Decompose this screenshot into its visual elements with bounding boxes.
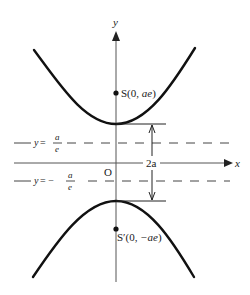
svg-text:e: e (68, 182, 72, 192)
x-axis-label: x (234, 157, 240, 169)
svg-text:y: y (33, 175, 39, 186)
svg-text:a: a (68, 170, 73, 180)
svg-text:=: = (40, 137, 46, 148)
hyperbola-lower-branch (33, 201, 194, 277)
focus-s-label: S(0, ae) (121, 87, 156, 100)
svg-text:e: e (55, 144, 59, 154)
y-axis-label: y (112, 16, 118, 28)
svg-text:a: a (55, 132, 60, 142)
x-axis-arrow-icon (224, 159, 233, 167)
svg-text:y: y (33, 137, 39, 148)
hyperbola-diagram: y x O y = a e y = − a e 2a S(0, ae) (0, 0, 250, 295)
hyperbola-upper-branch (34, 48, 195, 124)
dimension-label: 2a (146, 157, 157, 169)
directrix-lower-label: y = − a e (33, 170, 75, 192)
svg-text:= −: = − (40, 175, 54, 186)
directrix-upper-label: y = a e (33, 132, 62, 154)
focus-s-point (113, 90, 118, 95)
focus-s-prime-label: S′(0, −ae) (117, 231, 162, 244)
y-axis-arrow-icon (112, 31, 120, 41)
origin-label: O (104, 166, 112, 178)
